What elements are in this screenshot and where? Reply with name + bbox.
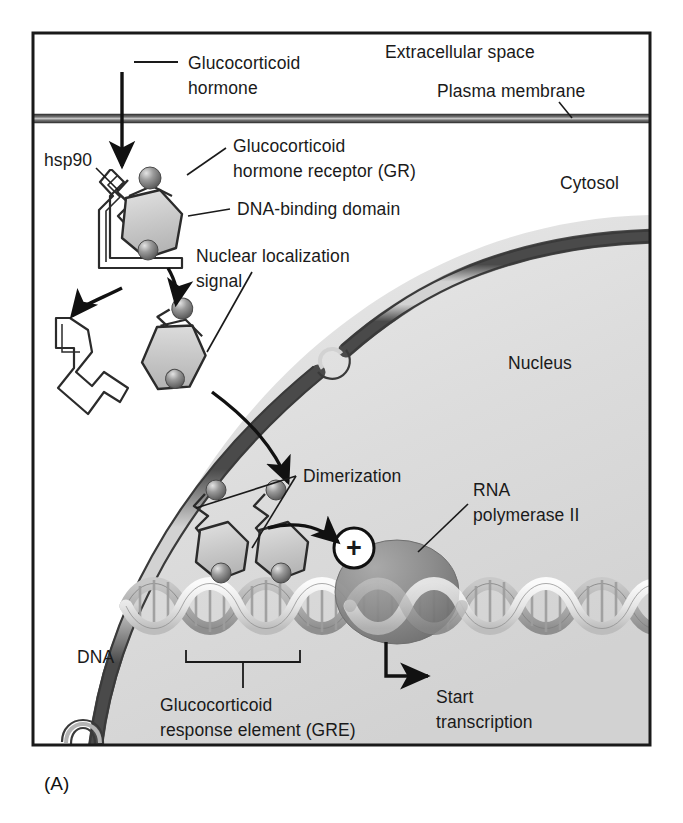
label-plasma-membrane: Plasma membrane xyxy=(437,81,585,101)
label-dimerization: Dimerization xyxy=(303,466,401,486)
panel-label: (A) xyxy=(44,773,69,794)
diagram-canvas: + xyxy=(0,0,683,823)
activation-plus-badge: + xyxy=(334,528,374,568)
label-gre-line2: response element (GRE) xyxy=(160,720,356,740)
label-cytosol: Cytosol xyxy=(560,173,619,193)
label-hsp90: hsp90 xyxy=(44,150,92,170)
nls-sphere-bound xyxy=(138,240,158,260)
label-receptor-line1: Glucocorticoid xyxy=(233,136,345,156)
cell-compartments xyxy=(33,33,660,760)
label-dna-binding-domain: DNA-binding domain xyxy=(237,199,400,219)
label-nucleus: Nucleus xyxy=(508,353,572,373)
label-dna: DNA xyxy=(77,647,114,667)
label-nls-line2: signal xyxy=(196,271,242,291)
label-hormone-line1: Glucocorticoid xyxy=(188,53,300,73)
label-rna-pol-line1: RNA xyxy=(473,480,510,500)
figure-container: + xyxy=(0,0,683,823)
plasma-membrane xyxy=(33,114,650,123)
label-hormone-line2: hormone xyxy=(188,78,258,98)
label-gre-line1: Glucocorticoid xyxy=(160,695,272,715)
label-start-line2: transcription xyxy=(436,712,533,732)
label-nls-line1: Nuclear localization xyxy=(196,246,350,266)
dbd-sphere-dimer-right xyxy=(271,563,291,583)
dbd-sphere-dimer-left xyxy=(211,563,231,583)
hormone-ligand-bound xyxy=(139,167,161,189)
label-extracellular-space: Extracellular space xyxy=(385,42,535,62)
label-start-line1: Start xyxy=(436,687,473,707)
plus-sign-label: + xyxy=(346,533,362,563)
hormone-ligand-dimer-left xyxy=(206,480,226,500)
label-receptor-line2: hormone receptor (GR) xyxy=(233,161,416,181)
label-rna-pol-line2: polymerase II xyxy=(473,505,579,525)
